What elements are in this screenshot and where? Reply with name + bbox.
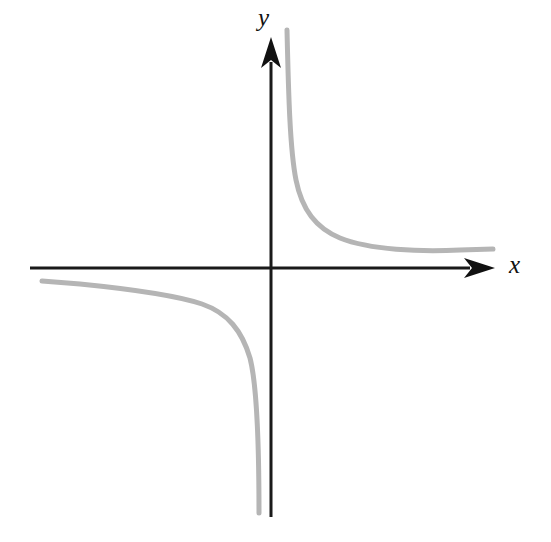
graph-canvas bbox=[0, 0, 551, 542]
hyperbola-figure: y x bbox=[0, 0, 551, 542]
figure-background bbox=[0, 0, 551, 542]
x-axis-label: x bbox=[509, 252, 520, 277]
y-axis-label: y bbox=[258, 5, 269, 30]
